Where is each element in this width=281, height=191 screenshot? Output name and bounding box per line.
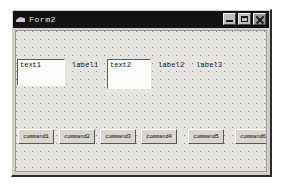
vb-form-icon xyxy=(16,15,25,24)
maximize-button[interactable] xyxy=(238,13,251,25)
window-titlebar[interactable]: Form2 xyxy=(13,11,269,28)
label-label1: label1 xyxy=(72,61,98,70)
command-button-command6[interactable]: command6 xyxy=(235,129,267,144)
command-button-command1[interactable]: command1 xyxy=(18,129,54,144)
window-title: Form2 xyxy=(29,15,56,24)
screenshot-root: Form2 text1 text2 label1 label2 label3 xyxy=(0,0,281,191)
command-button-command4[interactable]: command4 xyxy=(141,129,177,144)
maximize-icon xyxy=(241,16,248,22)
vb-form-designer-window: Form2 text1 text2 label1 label2 label3 xyxy=(11,9,272,177)
label-label3: label3 xyxy=(196,61,222,70)
label-label2: label2 xyxy=(158,61,184,70)
command-button-command5[interactable]: command5 xyxy=(188,129,224,144)
textbox-text2[interactable]: text2 xyxy=(107,59,151,89)
textbox-text1[interactable]: text1 xyxy=(17,59,65,86)
close-button[interactable] xyxy=(253,13,266,25)
command-button-command2[interactable]: command2 xyxy=(59,129,95,144)
command-button-command3[interactable]: command3 xyxy=(100,129,136,144)
window-controls xyxy=(223,13,266,25)
minimize-icon xyxy=(226,20,233,22)
form-design-surface[interactable]: text1 text2 label1 label2 label3 command… xyxy=(15,30,267,172)
minimize-button[interactable] xyxy=(223,13,236,25)
